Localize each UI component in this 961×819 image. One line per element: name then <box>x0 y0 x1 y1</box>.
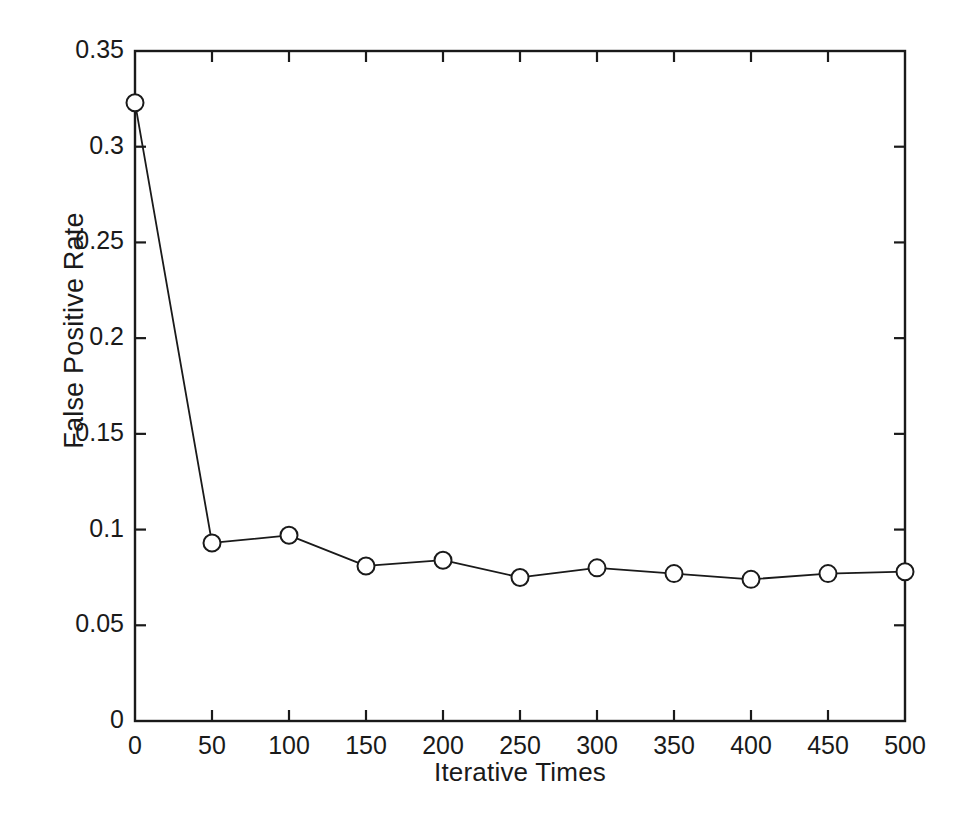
x-tick-label: 200 <box>422 733 464 758</box>
x-tick-label: 300 <box>576 733 618 758</box>
x-tick-label: 100 <box>268 733 310 758</box>
x-tick-label: 0 <box>128 733 142 758</box>
x-tick-label: 350 <box>653 733 695 758</box>
x-tick-label: 150 <box>345 733 387 758</box>
x-tick-label: 500 <box>884 733 926 758</box>
x-axis-title: Iterative Times <box>135 757 905 788</box>
x-tick-label: 450 <box>807 733 849 758</box>
x-tick-label: 400 <box>730 733 772 758</box>
x-tick-label: 50 <box>198 733 226 758</box>
x-axis-tick-labels: 050100150200250300350400450500 <box>0 0 961 819</box>
x-tick-label: 250 <box>499 733 541 758</box>
chart-figure: False Positive Rate 00.050.10.150.20.250… <box>0 0 961 819</box>
figure-caption <box>0 800 961 819</box>
